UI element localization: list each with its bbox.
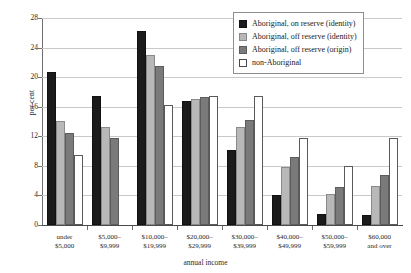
y-tick-label: 28 [16, 14, 38, 22]
bar-group [182, 18, 218, 225]
bar [290, 157, 299, 225]
bar [389, 138, 398, 225]
bar [65, 133, 74, 225]
bar [191, 99, 200, 225]
chart-legend: Aboriginal, on reserve (identity) Aborig… [233, 12, 364, 74]
bar [254, 96, 263, 225]
bar [272, 195, 281, 225]
bar [74, 155, 83, 225]
bar [326, 194, 335, 225]
bar [317, 214, 326, 225]
y-tick-mark [38, 48, 42, 49]
bar [281, 167, 290, 225]
legend-label: Aboriginal, off reserve (origin) [252, 45, 351, 55]
bar [335, 187, 344, 225]
bar [110, 138, 119, 225]
bar [101, 127, 110, 225]
legend-swatch-icon [239, 59, 247, 67]
y-tick-mark [38, 18, 42, 19]
y-tick-mark [38, 195, 42, 196]
x-tick-mark [87, 226, 88, 230]
x-tick-mark [132, 226, 133, 230]
bar [92, 96, 101, 225]
legend-item: Aboriginal, off reserve (origin) [239, 43, 357, 56]
bar [164, 105, 173, 225]
bar [200, 97, 209, 225]
bar [137, 31, 146, 225]
bar-chart: per cent 0481216202428 annual income Abo… [0, 0, 411, 273]
legend-swatch-icon [239, 46, 247, 54]
y-tick-label: 24 [16, 44, 38, 52]
bar [245, 120, 254, 225]
x-tick-label-line: and over [350, 242, 410, 251]
legend-label: Aboriginal, off reserve (identity) [252, 32, 357, 42]
bar [146, 55, 155, 225]
y-tick-label: 20 [16, 73, 38, 81]
bar [344, 166, 353, 225]
x-tick-mark [312, 226, 313, 230]
y-tick-mark [38, 225, 42, 226]
legend-swatch-icon [239, 33, 247, 41]
x-tick-mark [267, 226, 268, 230]
bar-group [137, 18, 173, 225]
bar [236, 127, 245, 225]
bar [227, 150, 236, 225]
x-tick-mark [357, 226, 358, 230]
y-tick-mark [38, 136, 42, 137]
legend-label: non-Aboriginal [252, 58, 301, 68]
bar [209, 96, 218, 225]
y-tick-label: 16 [16, 103, 38, 111]
y-tick-label: 4 [16, 192, 38, 200]
bar [371, 186, 380, 225]
bar [155, 66, 164, 225]
legend-swatch-icon [239, 20, 247, 28]
y-tick-mark [38, 166, 42, 167]
x-tick-label: $60,000and over [350, 233, 410, 251]
y-tick-label: 8 [16, 162, 38, 170]
legend-label: Aboriginal, on reserve (identity) [252, 19, 356, 29]
legend-item: Aboriginal, off reserve (identity) [239, 30, 357, 43]
y-tick-label: 0 [16, 221, 38, 229]
bar [380, 175, 389, 225]
bar-group [92, 18, 128, 225]
bar [362, 215, 371, 225]
bar-group [362, 18, 398, 225]
x-axis-label: annual income [0, 258, 411, 267]
x-tick-label-line: $60,000 [350, 233, 410, 242]
bar [47, 72, 56, 225]
x-tick-mark [222, 226, 223, 230]
bar-group [47, 18, 83, 225]
legend-item: Aboriginal, on reserve (identity) [239, 17, 357, 30]
y-tick-mark [38, 77, 42, 78]
legend-item: non-Aboriginal [239, 56, 357, 69]
bar [182, 101, 191, 225]
y-tick-mark [38, 107, 42, 108]
bar [56, 121, 65, 225]
x-tick-mark [177, 226, 178, 230]
y-tick-label: 12 [16, 133, 38, 141]
bar [299, 138, 308, 225]
